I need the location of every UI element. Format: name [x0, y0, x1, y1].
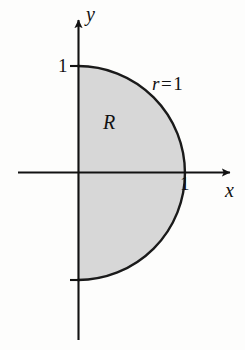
figure-canvas: y x 1 1 R r=1 — [0, 0, 245, 350]
y-axis-tick-label-1: 1 — [58, 56, 68, 75]
curve-eq-equals-sign: = — [160, 73, 173, 94]
curve-eq-variable: r — [152, 73, 160, 94]
y-axis-label: y — [86, 4, 95, 24]
x-axis-label: x — [225, 180, 234, 200]
x-axis-tick-label-1: 1 — [180, 174, 190, 193]
diagram-svg — [0, 0, 245, 350]
curve-eq-value: 1 — [173, 73, 183, 94]
curve-equation-label: r=1 — [152, 74, 183, 93]
region-label-R: R — [103, 112, 115, 132]
